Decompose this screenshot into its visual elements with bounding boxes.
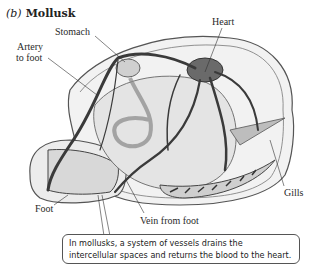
label-vein-from-foot: Vein from foot (140, 215, 199, 226)
caption-callout: In mollusks, a system of vessels drains … (62, 234, 300, 264)
heart-shape (187, 58, 223, 82)
label-artery-line2: to foot (16, 52, 42, 63)
stomach-shape (116, 59, 140, 77)
label-heart: Heart (212, 16, 234, 27)
label-stomach: Stomach (55, 26, 90, 37)
label-gills: Gills (284, 187, 303, 198)
label-artery-line1: Artery (17, 41, 43, 52)
label-foot: Foot (35, 203, 53, 214)
